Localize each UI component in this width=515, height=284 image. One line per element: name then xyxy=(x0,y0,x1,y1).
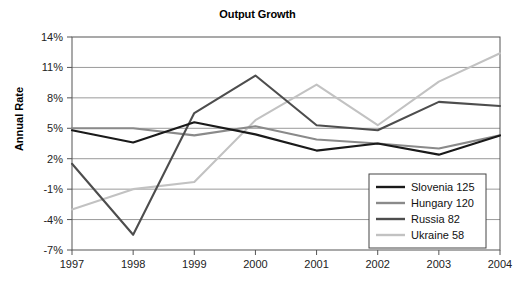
y-tick-label: 11% xyxy=(42,61,63,73)
x-tick-label: 1998 xyxy=(121,258,145,270)
x-tick-label: 2002 xyxy=(365,258,389,270)
y-tick-label: -4% xyxy=(43,214,63,226)
y-tick-label: 14% xyxy=(41,31,63,43)
legend-label[interactable]: Slovenia 125 xyxy=(411,181,475,193)
legend-label[interactable]: Ukraine 58 xyxy=(411,229,464,241)
series-line-hungary xyxy=(72,126,500,148)
x-tick-label: 2001 xyxy=(304,258,328,270)
legend-label[interactable]: Russia 82 xyxy=(411,213,460,225)
x-tick-label: 2000 xyxy=(243,258,267,270)
x-tick-label: 2003 xyxy=(427,258,451,270)
line-chart-plot: 14%11%8%5%2%-1%-4%-7% 199719981999200020… xyxy=(0,0,515,284)
series-line-slovenia xyxy=(72,122,500,154)
y-tick-label: 5% xyxy=(47,122,63,134)
chart-figure: Output Growth Annual Rate 14%11%8%5%2%-1… xyxy=(0,0,515,284)
y-axis-label: Annual Rate xyxy=(13,74,25,164)
legend-label[interactable]: Hungary 120 xyxy=(411,197,474,209)
chart-title: Output Growth xyxy=(0,8,515,20)
chart-legend[interactable]: Slovenia 125Hungary 120Russia 82Ukraine … xyxy=(369,174,486,248)
x-tick-label: 2004 xyxy=(488,258,512,270)
y-tick-label: 8% xyxy=(47,92,63,104)
y-tick-label: -7% xyxy=(43,244,63,256)
x-tick-label: 1999 xyxy=(182,258,206,270)
y-tick-label: 2% xyxy=(47,153,63,165)
y-axis-ticks-group: 14%11%8%5%2%-1%-4%-7% xyxy=(41,31,72,256)
y-tick-label: -1% xyxy=(43,183,63,195)
x-tick-label: 1997 xyxy=(60,258,84,270)
x-axis-ticks-group: 19971998199920002001200220032004 xyxy=(60,250,512,270)
